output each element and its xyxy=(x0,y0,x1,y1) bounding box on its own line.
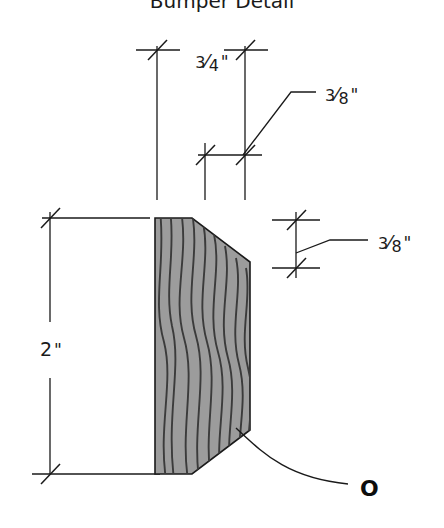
drawing-title: Bumper Detail xyxy=(150,0,294,13)
callout-label-o: O xyxy=(360,476,379,501)
bumper-detail-drawing: Bumper Detail 3⁄4" 3⁄8" 3⁄8" xyxy=(0,0,444,528)
dimension-label-height: 2" xyxy=(40,338,62,360)
